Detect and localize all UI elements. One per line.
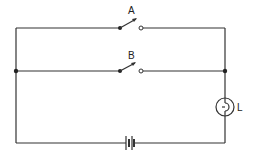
battery-icon (126, 136, 134, 150)
lamp: L (216, 98, 243, 116)
switch-a-label: A (128, 5, 135, 16)
wires (16, 28, 225, 143)
switch-b-contact (139, 69, 143, 73)
switch-a-contact (139, 26, 143, 30)
lamp-label: L (237, 102, 243, 113)
circuit-diagram: A B L (0, 0, 256, 155)
junction-left-dot (14, 69, 18, 73)
switch-a: A (118, 5, 143, 30)
junction-right-dot (223, 69, 227, 73)
switch-b: B (118, 50, 143, 73)
switch-b-label: B (128, 50, 135, 61)
